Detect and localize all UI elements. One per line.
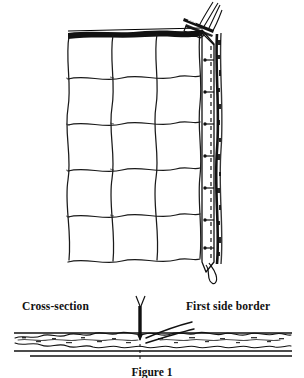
label-cross-section: Cross-section xyxy=(22,300,89,312)
figure-caption: Figure 1 xyxy=(0,366,304,378)
label-first-side-border: First side border xyxy=(186,300,270,312)
